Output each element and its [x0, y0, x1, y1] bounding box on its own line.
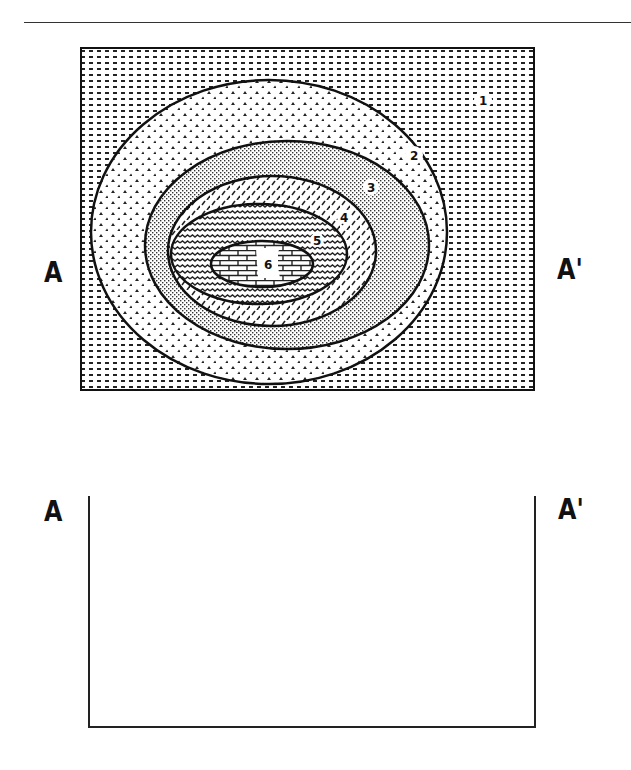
unit-label-2: 2	[410, 149, 418, 163]
unit-label-1: 1	[479, 94, 487, 108]
unit-label-6: 6	[264, 258, 272, 272]
unit-label-3: 3	[367, 181, 375, 195]
unit-label-5: 5	[313, 234, 321, 248]
geologic-map: 1 2 3 4 5 6	[0, 0, 631, 400]
map-label-a-prime: A'	[557, 256, 583, 284]
section-label-a-prime: A'	[558, 496, 584, 524]
map-label-a: A	[44, 259, 62, 287]
unit-label-4: 4	[340, 211, 348, 225]
cross-section-frame	[88, 496, 536, 728]
section-label-a: A	[44, 498, 62, 526]
